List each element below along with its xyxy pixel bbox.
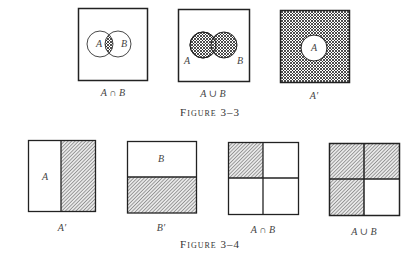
panel-label-union: A ∪ B: [173, 88, 253, 99]
grid-union-panel: [330, 144, 400, 216]
set-label-a: A: [274, 42, 354, 53]
panel-label-union: A ∪ B: [324, 226, 404, 237]
panel-label-complement: A′: [274, 90, 354, 101]
figure-caption: Figure 3–4: [150, 238, 270, 250]
panel-label-intersection: A ∩ B: [73, 87, 153, 98]
figure-caption: Figure 3–3: [150, 106, 270, 118]
set-label-b: B: [84, 38, 164, 49]
grid-intersection-panel: [229, 143, 299, 215]
panel-label-a-complement: A′: [22, 222, 102, 233]
panel-label-intersection: A ∩ B: [223, 224, 303, 235]
panel-label-b-complement: B′: [121, 222, 201, 233]
set-label-b: B: [200, 55, 280, 66]
venn-union-panel: [179, 10, 250, 82]
region-label-b: B: [121, 153, 201, 164]
region-label-a: A: [5, 171, 85, 182]
